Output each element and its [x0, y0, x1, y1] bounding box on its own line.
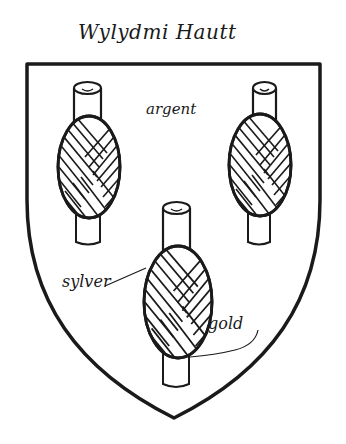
- shield-drawing: [0, 0, 346, 444]
- label-stick-tincture: gold: [208, 314, 243, 333]
- label-field-tincture: argent: [146, 100, 196, 118]
- label-skein-tincture: sylver: [62, 272, 111, 291]
